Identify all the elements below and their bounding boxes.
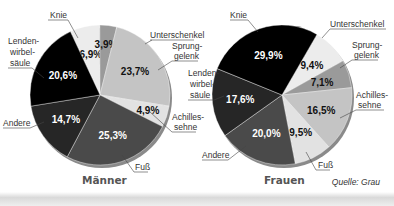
pie-maenner: 6,9%3,9%23,7%4,9%25,3%14,7%20,6% [30,25,172,168]
pie-value-label: 29,9% [254,50,282,61]
label-sprunggelenk-right-1: Sprung- [352,40,382,50]
label-knie-left: Knie [50,10,67,20]
chart-canvas: 6,9%3,9%23,7%4,9%25,3%14,7%20,6% 9,4%7,1… [0,0,394,206]
label-sprunggelenk-left-1: Sprung- [172,41,202,51]
label-achilles-right-1: Achilles- [356,90,388,100]
pie-charts-svg: 6,9%3,9%23,7%4,9%25,3%14,7%20,6% 9,4%7,1… [0,0,394,206]
label-achilles-right-2: sehne [358,100,381,110]
pie-frauen: 9,4%7,1%16,5%9,5%20,0%17,6%29,9% [212,25,354,168]
label-lenden-left-1: Lenden- [8,36,39,46]
label-fuss-right: Fuß [318,160,333,170]
label-achilles-left-1: Achilles- [172,112,204,122]
label-lenden-left-3: säule [10,58,31,68]
pie-value-label: 14,7% [52,114,80,125]
label-sprunggelenk-left-2: gelenk [174,51,200,61]
pie-value-label: 20,0% [252,128,280,139]
label-lenden-right-2: wirbel- [189,79,215,89]
label-unterschenkel-right: Unterschenkel [330,19,384,29]
label-lenden-right-3: säule [190,90,211,100]
label-andere-right: Andere [202,150,230,160]
label-unterschenkel-left: Unterschenkel [150,30,204,40]
label-andere-left: Andere [3,118,31,128]
pie-value-label: 16,5% [307,105,335,116]
pie-value-label: 23,7% [121,66,149,77]
chart-title-maenner: Männer [82,174,127,186]
label-lenden-left-2: wirbel- [9,47,35,57]
pie-value-label: 25,3% [99,130,127,141]
label-lenden-right-1: Lenden- [188,68,219,78]
pie-value-label: 4,9% [137,105,160,116]
pie-value-label: 7,1% [311,77,334,88]
label-fuss-left: Fuß [135,162,150,172]
chart-title-frauen: Frauen [264,174,305,186]
source-credit: Quelle: Grau [332,177,380,187]
label-sprunggelenk-right-2: gelenk [354,50,380,60]
pie-value-label: 17,6% [226,94,254,105]
pie-value-label: 9,4% [300,60,323,71]
pie-value-label: 9,5% [289,127,312,138]
pie-value-label: 20,6% [49,70,77,81]
footer-bar [0,192,394,206]
label-knie-right: Knie [230,10,247,20]
label-achilles-left-2: sehne [174,122,197,132]
